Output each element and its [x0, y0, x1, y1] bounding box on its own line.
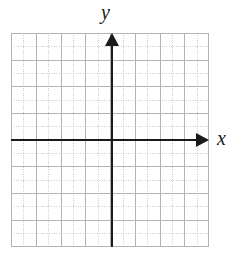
x-axis-line [11, 139, 200, 141]
x-axis-label: x [217, 128, 226, 148]
major-gridline-horizontal [11, 60, 209, 61]
x-axis-arrowhead-icon [196, 133, 209, 147]
major-gridline-horizontal [11, 193, 209, 194]
major-gridline-horizontal [11, 246, 209, 247]
major-gridline-horizontal [11, 166, 209, 167]
y-axis-label: y [101, 2, 110, 22]
major-gridline-horizontal [11, 86, 209, 87]
coordinate-plane-figure: y x [0, 0, 226, 263]
major-gridline-horizontal [11, 113, 209, 114]
y-axis-line [111, 45, 113, 247]
major-gridline-horizontal [11, 220, 209, 221]
y-axis-arrowhead-icon [105, 33, 119, 46]
